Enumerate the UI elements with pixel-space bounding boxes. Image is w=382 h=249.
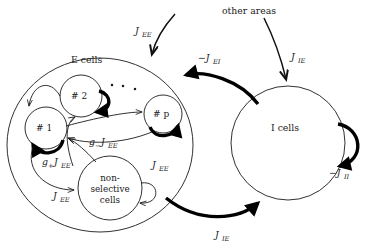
circuit-diagram: other areas E cells I cells # 1 # 2 # p … bbox=[0, 0, 382, 249]
label-jii-base: −J bbox=[329, 167, 342, 178]
population-ns-label-line2: selective bbox=[90, 184, 129, 194]
arrow-external-to-e bbox=[152, 14, 175, 54]
label-gplus-sign: + bbox=[48, 162, 54, 170]
label-jee-base-sub: EE bbox=[59, 196, 70, 204]
diagram-canvas: other areas E cells I cells # 1 # 2 # p … bbox=[0, 0, 382, 249]
label-jei-sub: EI bbox=[212, 58, 221, 66]
other-areas-label: other areas bbox=[222, 5, 276, 16]
i-cells-boundary bbox=[231, 86, 345, 200]
label-jie-top-base: J bbox=[289, 51, 296, 62]
population-ns-label-line3: cells bbox=[100, 195, 121, 205]
arrow-e-to-i bbox=[166, 198, 258, 217]
label-jee-top-sub: EE bbox=[141, 31, 152, 39]
label-jie-bottom-sub: IE bbox=[221, 235, 230, 243]
label-external-to-e: J EE bbox=[133, 25, 152, 39]
i-cells-label: I cells bbox=[271, 122, 299, 133]
label-jie-bottom-base: J bbox=[213, 229, 220, 240]
population-ns-label-line1: non- bbox=[100, 173, 120, 183]
population-p2-label: # 2 bbox=[71, 91, 87, 101]
e-cells-label: E cells bbox=[71, 54, 102, 65]
label-gminus-sub: EE bbox=[107, 142, 118, 150]
label-gplus-sub: EE bbox=[60, 162, 71, 170]
label-gminus-sign: − bbox=[95, 142, 101, 150]
label-jei-base: −J bbox=[198, 52, 211, 63]
label-jee-ns-sub: EE bbox=[158, 165, 169, 173]
population-p1-label: # 1 bbox=[36, 123, 52, 133]
arrow-external-to-i bbox=[264, 18, 286, 79]
label-jie-top-sub: IE bbox=[297, 57, 306, 65]
label-e-to-i: J IE bbox=[213, 229, 230, 243]
population-pp-label: # p bbox=[153, 109, 169, 119]
label-jee-top-base: J bbox=[133, 25, 140, 36]
ellipsis-dot-3 bbox=[134, 88, 137, 91]
ellipsis-dot-2 bbox=[122, 85, 125, 88]
label-external-to-i: J IE bbox=[289, 51, 306, 65]
arrow-i-to-e bbox=[186, 74, 258, 104]
ellipsis-dot-1 bbox=[111, 84, 114, 87]
label-jii-sub: II bbox=[343, 173, 350, 181]
label-i-to-e: −J EI bbox=[198, 52, 221, 66]
